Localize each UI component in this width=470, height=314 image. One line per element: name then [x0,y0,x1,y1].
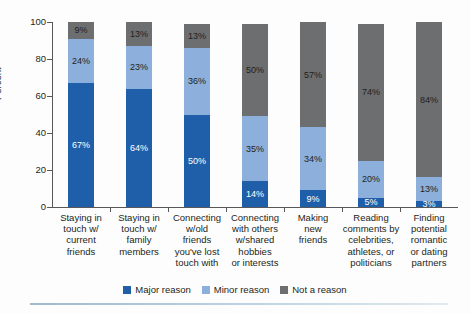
bar-group[interactable]: 64%23%13% [110,22,168,207]
category-label: Staying intouch w/familymembers [110,212,168,257]
bar-segment-value: 13% [416,185,442,194]
bar-segment-minor[interactable]: 20% [358,161,384,198]
bar-group[interactable]: 5%20%74% [342,22,400,207]
y-axis-tick-label: 100 [0,17,46,27]
bar-segment-value: 35% [242,144,268,153]
stacked-bar[interactable]: 50%36%13% [184,22,210,207]
bar-group[interactable]: 50%36%13% [168,22,226,207]
stacked-bar[interactable]: 14%35%50% [242,22,268,207]
bar-segment-major[interactable]: 9% [300,190,326,207]
bar-segment-value: 24% [68,56,94,65]
bar-segment-none[interactable]: 50% [242,24,268,117]
x-axis-tick [284,207,285,212]
y-axis-tick-label: 80 [0,54,46,64]
bar-segment-value: 23% [126,63,152,72]
bar-segment-minor[interactable]: 23% [126,46,152,89]
bar-segment-value: 50% [242,66,268,75]
bars-container: 67%24%9%64%23%13%50%36%13%14%35%50%9%34%… [52,22,458,207]
bar-segment-value: 20% [358,175,384,184]
bar-group[interactable]: 14%35%50% [226,22,284,207]
y-axis-tick-label: 20 [0,165,46,175]
x-axis-tick [168,207,169,212]
bar-segment-value: 9% [300,194,326,203]
stacked-bar[interactable]: 67%24%9% [68,22,94,207]
bar-segment-none[interactable]: 9% [68,22,94,39]
bar-segment-value: 57% [300,70,326,79]
bar-segment-value: 84% [416,95,442,104]
x-axis-tick [342,207,343,212]
bar-segment-value: 50% [184,156,210,165]
bar-group[interactable]: 67%24%9% [52,22,110,207]
chart-page: 020406080100 Percent 67%24%9%64%23%13%50… [0,0,470,314]
bar-segment-value: 67% [68,141,94,150]
y-axis-tick [47,133,52,134]
bar-segment-major[interactable]: 5% [358,198,384,207]
chart-legend: Major reasonMinor reasonNot a reason [0,284,470,295]
bar-segment-value: 36% [184,77,210,86]
bar-segment-none[interactable]: 84% [416,22,442,177]
y-axis-tick [47,170,52,171]
legend-item[interactable]: Not a reason [280,284,346,295]
category-label: Connectingwith othersw/sharedhobbiesor i… [226,212,284,268]
bar-segment-major[interactable]: 67% [68,83,94,207]
bar-segment-major[interactable]: 14% [242,181,268,207]
legend-swatch [123,286,131,294]
bar-segment-minor[interactable]: 13% [416,177,442,201]
y-axis-tick-label: 60 [0,91,46,101]
x-axis-tick [226,207,227,212]
category-label: Findingpotentialromanticor datingpartner… [400,212,458,268]
bar-segment-minor[interactable]: 24% [68,39,94,83]
x-axis-tick [400,207,401,212]
stacked-bar[interactable]: 3%13%84% [416,22,442,207]
stacked-bar[interactable]: 9%34%57% [300,22,326,207]
x-axis-tick [110,207,111,212]
legend-item[interactable]: Minor reason [202,284,269,295]
legend-swatch [202,286,210,294]
y-axis-tick [47,22,52,23]
x-axis-line [52,207,458,208]
bar-segment-none[interactable]: 13% [126,22,152,46]
bar-segment-value: 13% [126,30,152,39]
bar-segment-value: 74% [358,88,384,97]
y-axis-tick [47,207,52,208]
y-axis-title: Percent [0,67,3,100]
bar-segment-value: 5% [358,198,384,207]
legend-swatch [280,286,288,294]
bar-group[interactable]: 3%13%84% [400,22,458,207]
y-axis-tick-label: 40 [0,128,46,138]
bar-segment-value: 34% [300,154,326,163]
bar-segment-none[interactable]: 57% [300,22,326,127]
bar-group[interactable]: 9%34%57% [284,22,342,207]
bar-segment-value: 64% [126,143,152,152]
bar-segment-none[interactable]: 13% [184,24,210,48]
stacked-bar[interactable]: 64%23%13% [126,22,152,207]
category-labels: Staying intouch w/currentfriendsStaying … [52,212,458,282]
y-axis-tick [47,96,52,97]
legend-label: Major reason [135,284,190,295]
bar-segment-major[interactable]: 3% [416,201,442,207]
bottom-divider [30,303,448,305]
stacked-bar[interactable]: 5%20%74% [358,22,384,207]
bar-segment-minor[interactable]: 36% [184,48,210,115]
bar-segment-minor[interactable]: 35% [242,116,268,181]
category-label: Connectingw/oldfriendsyou've losttouch w… [168,212,226,268]
legend-label: Not a reason [292,284,346,295]
bar-segment-value: 14% [242,190,268,199]
y-axis-tick [47,59,52,60]
legend-item[interactable]: Major reason [123,284,190,295]
y-axis-tick-label: 0 [0,202,46,212]
bar-segment-none[interactable]: 74% [358,24,384,161]
category-label: Staying intouch w/currentfriends [52,212,110,257]
bar-segment-major[interactable]: 50% [184,115,210,208]
bar-segment-major[interactable]: 64% [126,89,152,207]
bar-segment-minor[interactable]: 34% [300,127,326,190]
category-label: Makingnewfriends [284,212,342,246]
legend-label: Minor reason [214,284,269,295]
bar-segment-value: 13% [184,31,210,40]
bar-segment-value: 9% [68,26,94,35]
category-label: Readingcomments bycelebrities,athletes, … [342,212,400,268]
